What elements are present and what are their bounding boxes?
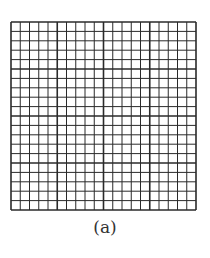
square-grid xyxy=(10,21,197,211)
figure-caption: (a) xyxy=(0,217,210,237)
